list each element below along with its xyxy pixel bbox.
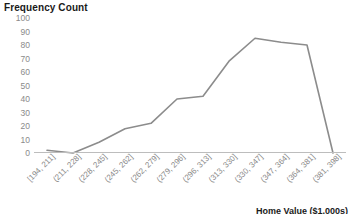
y-axis-tick-label: 0 [0,149,30,158]
x-axis: [194, 211](211, 228](228, 245](245, 262]… [34,153,346,201]
y-axis-tick-label: 30 [0,108,30,117]
y-axis-tick-label: 40 [0,95,30,104]
x-axis-title: Home Value ($1,000s) [256,206,348,214]
y-axis-tick-label: 60 [0,68,30,77]
y-axis: 0102030405060708090100 [0,18,30,153]
y-axis-tick-label: 80 [0,41,30,50]
y-axis-tick-label: 50 [0,81,30,90]
y-axis-tick-label: 70 [0,54,30,63]
y-axis-tick-label: 100 [0,14,30,23]
chart-title: Frequency Count [4,2,88,13]
series-line [34,18,346,153]
frequency-count-line-chart: Frequency Count 0102030405060708090100 [… [0,0,350,214]
y-axis-tick-label: 10 [0,135,30,144]
y-axis-tick-label: 20 [0,122,30,131]
y-axis-tick-label: 90 [0,27,30,36]
plot-area [34,18,346,153]
